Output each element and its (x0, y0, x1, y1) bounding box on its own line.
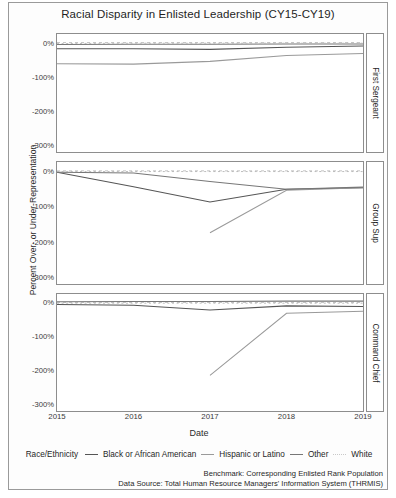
x-tick-label: 2019 (354, 412, 371, 421)
legend-title: Race/Ethnicity (26, 450, 78, 459)
legend-item[interactable]: White (333, 450, 372, 459)
legend-item[interactable]: Black or African American (85, 450, 196, 459)
legend-item[interactable]: Hispanic or Latino (201, 450, 285, 459)
y-tick-label: -300% (10, 141, 54, 150)
legend-item-label: Black or African American (103, 450, 196, 459)
legend-line-icon (85, 454, 98, 455)
panel-strip-label: First Sergeant (366, 33, 384, 153)
chart-legend: Race/Ethnicity Black or African American… (9, 450, 389, 459)
legend-item-label: Hispanic or Latino (219, 450, 285, 459)
y-tick-label: 0% (10, 298, 54, 307)
plot-panel (56, 33, 364, 153)
panel-label-text: Command Chief (371, 323, 380, 382)
x-tick-label: 2016 (125, 412, 142, 421)
plot-panel (56, 293, 364, 412)
y-tick-label: -200% (10, 237, 54, 246)
y-tick-label: -100% (10, 332, 54, 341)
chart-figure: Racial Disparity in Enlisted Leadership … (8, 2, 388, 490)
chart-title: Racial Disparity in Enlisted Leadership … (9, 8, 387, 20)
panel-label-text: Group Sup (371, 203, 380, 243)
x-axis-label: Date (9, 428, 389, 438)
x-tick-label: 2015 (48, 412, 65, 421)
y-tick-label: -100% (10, 72, 54, 81)
source-note: Data Source: Total Human Resource Manage… (9, 479, 383, 489)
panel-strip-label: Group Sup (366, 161, 384, 285)
y-tick-label: -300% (10, 400, 54, 409)
benchmark-note: Benchmark: Corresponding Enlisted Rank P… (9, 469, 383, 479)
legend-item-label: Other (308, 450, 328, 459)
y-tick-label: -300% (10, 272, 54, 281)
y-tick-label: 0% (10, 166, 54, 175)
x-tick-label: 2017 (201, 412, 218, 421)
y-tick-label: -100% (10, 202, 54, 211)
y-tick-label: -200% (10, 366, 54, 375)
legend-item-label: White (351, 450, 372, 459)
legend-line-icon (290, 454, 303, 455)
chart-footnotes: Benchmark: Corresponding Enlisted Rank P… (9, 469, 383, 490)
y-tick-label: 0% (10, 38, 54, 47)
legend-line-icon (333, 454, 346, 455)
legend-item[interactable]: Other (290, 450, 328, 459)
panel-label-text: First Sergeant (371, 67, 380, 118)
y-tick-label: -200% (10, 106, 54, 115)
x-tick-label: 2018 (278, 412, 295, 421)
y-axis-tick-group: 0%-100%-200%-300%0%-100%-200%-300%0%-100… (9, 3, 54, 489)
legend-line-icon (201, 454, 214, 455)
plot-panel (56, 161, 364, 285)
panel-strip-label: Command Chief (366, 293, 384, 412)
